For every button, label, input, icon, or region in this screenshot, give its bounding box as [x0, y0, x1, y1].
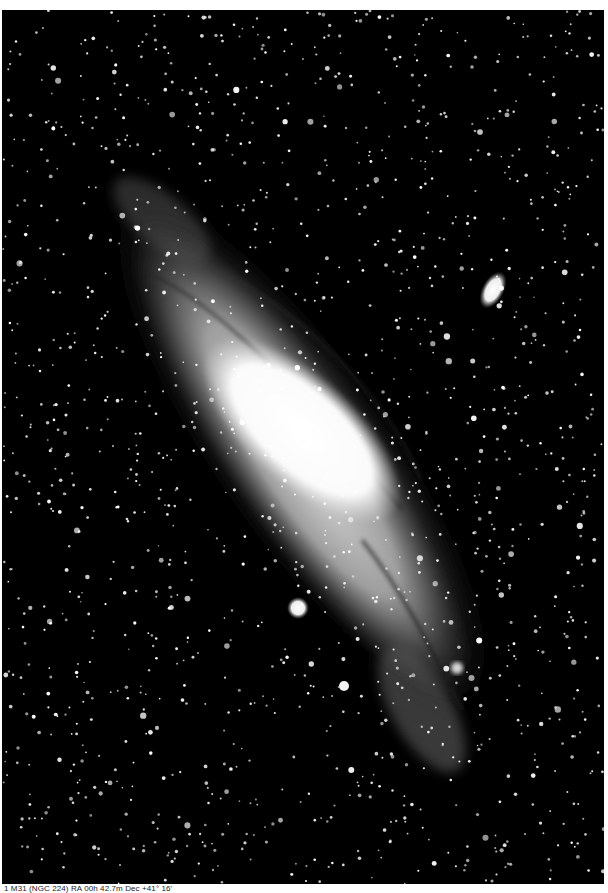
figure-caption: 1 M31 (NGC 224) RA 00h 42.7m Dec +41° 16… — [4, 884, 172, 893]
star-field — [2, 10, 604, 884]
galaxy-photo — [2, 10, 604, 884]
stars — [2, 10, 604, 884]
m110-satellite-galaxy — [474, 267, 512, 313]
bright-star — [339, 681, 349, 691]
m32-satellite-galaxy — [287, 597, 309, 619]
bright-star — [451, 662, 463, 674]
